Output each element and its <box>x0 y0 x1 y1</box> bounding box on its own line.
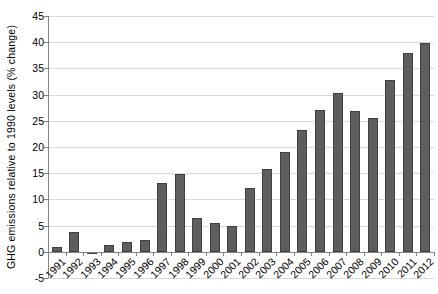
y-tick-mark <box>44 147 48 148</box>
y-tick-label: 0 <box>18 246 44 258</box>
gridline-35 <box>48 68 434 69</box>
bar-2010 <box>385 80 395 252</box>
x-tick-mark <box>294 252 295 256</box>
bar-1996 <box>140 240 150 252</box>
bar-2011 <box>403 53 413 252</box>
y-tick-mark <box>44 95 48 96</box>
plot-area <box>48 16 434 278</box>
bar-2008 <box>350 111 360 251</box>
bar-2001 <box>227 226 237 252</box>
x-tick-mark <box>329 252 330 256</box>
bar-1997 <box>157 183 167 252</box>
y-tick-label: 35 <box>18 62 44 74</box>
y-tick-mark <box>44 68 48 69</box>
y-tick-mark <box>44 42 48 43</box>
bar-1999 <box>192 218 202 252</box>
y-tick-label: 5 <box>18 220 44 232</box>
x-tick-mark <box>101 252 102 256</box>
y-axis-line <box>48 16 49 278</box>
x-tick-mark <box>241 252 242 256</box>
x-tick-mark <box>276 252 277 256</box>
y-tick-mark <box>44 173 48 174</box>
x-tick-mark <box>364 252 365 256</box>
x-tick-mark <box>206 252 207 256</box>
x-tick-mark <box>434 252 435 256</box>
bar-2000 <box>210 223 220 252</box>
x-tick-mark <box>399 252 400 256</box>
y-tick-label: 15 <box>18 167 44 179</box>
bar-2005 <box>297 130 307 252</box>
bar-2009 <box>368 118 378 252</box>
y-tick-label: 30 <box>18 89 44 101</box>
y-tick-mark <box>44 199 48 200</box>
bar-2012 <box>420 43 430 252</box>
x-tick-mark <box>223 252 224 256</box>
x-tick-mark <box>311 252 312 256</box>
x-tick-mark <box>171 252 172 256</box>
x-tick-mark <box>118 252 119 256</box>
x-tick-mark <box>136 252 137 256</box>
x-tick-mark <box>259 252 260 256</box>
y-tick-label: 45 <box>18 10 44 22</box>
ghg-emissions-bar-chart: GHG emissions relative to 1990 levels (%… <box>0 0 438 294</box>
bar-1994 <box>104 245 114 252</box>
x-tick-mark <box>83 252 84 256</box>
bar-2006 <box>315 110 325 251</box>
gridline-45 <box>48 16 434 17</box>
bar-1998 <box>175 174 185 252</box>
x-tick-mark <box>66 252 67 256</box>
y-tick-label: 20 <box>18 141 44 153</box>
y-tick-label: 25 <box>18 115 44 127</box>
x-tick-mark <box>346 252 347 256</box>
x-tick-mark <box>48 252 49 256</box>
x-tick-mark <box>153 252 154 256</box>
y-tick-mark <box>44 16 48 17</box>
y-tick-label: 40 <box>18 36 44 48</box>
bar-1992 <box>69 232 79 252</box>
y-axis-title: GHG emissions relative to 1990 levels (%… <box>5 25 17 269</box>
bar-1995 <box>122 242 132 252</box>
y-tick-mark <box>44 121 48 122</box>
x-tick-mark <box>416 252 417 256</box>
gridline-30 <box>48 95 434 96</box>
gridline-40 <box>48 42 434 43</box>
bar-2007 <box>333 93 343 252</box>
y-tick-mark <box>44 226 48 227</box>
bar-2004 <box>280 152 290 252</box>
bar-2003 <box>262 169 272 252</box>
y-tick-label: 10 <box>18 193 44 205</box>
bar-2002 <box>245 188 255 252</box>
x-tick-mark <box>188 252 189 256</box>
x-tick-mark <box>381 252 382 256</box>
